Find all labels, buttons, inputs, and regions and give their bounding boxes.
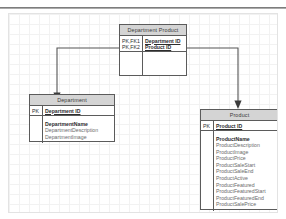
entity-attribute-section-product: ProductName ProductDescription ProductIm… (201, 131, 278, 211)
pk-attribute-name: Department ID (43, 108, 114, 115)
attribute-name: ProductFeaturedEnd (214, 195, 278, 202)
entity-pk-section-department-product: PK,FK1 PK,FK2 Department ID Product ID (120, 36, 186, 52)
pk-attribute-name: Product ID (143, 44, 186, 51)
attribute-column (143, 52, 186, 75)
attribute-name: ProductSalePrice (214, 201, 278, 208)
entity-title-department: Department (30, 95, 114, 106)
entity-attribute-section-department: DepartmentName DepartmentDescription Dep… (30, 116, 114, 143)
entity-department-product[interactable]: Department Product PK,FK1 PK,FK2 Departm… (119, 24, 187, 76)
attribute-name: DepartmentImage (43, 134, 114, 141)
attribute-name: ProductName (214, 136, 278, 143)
entity-title-department-product: Department Product (120, 25, 186, 36)
connector-department-product-to-product (187, 48, 242, 109)
attribute-name: ProductImage (214, 149, 278, 156)
attribute-column: DepartmentName DepartmentDescription Dep… (43, 116, 114, 143)
attribute-name: ProductSaleEnd (214, 168, 278, 175)
entity-attribute-section-department-product (120, 52, 186, 75)
attribute-name: ProductActive (214, 175, 278, 182)
pk-key-label: PK (201, 123, 213, 130)
window-top-rule (0, 7, 286, 9)
attribute-name: ProductSaleStart (214, 162, 278, 169)
attribute-name: ProductFeaturedStart (214, 188, 278, 195)
entity-pk-section-department: PK Department ID (30, 106, 114, 116)
attribute-name: DepartmentName (43, 121, 114, 128)
entity-pk-section-product: PK Product ID (201, 121, 278, 131)
attribute-name: DepartmentDescription (43, 127, 114, 134)
attribute-key-column (30, 116, 43, 143)
pk-key-column: PK (30, 106, 43, 115)
entity-product[interactable]: Product PK Product ID ProductName Produc… (200, 109, 278, 210)
pk-key-label: PK,FK1 (120, 38, 142, 45)
pk-attribute-column: Department ID (43, 106, 114, 115)
pk-attribute-column: Product ID (214, 121, 278, 130)
erd-screenshot: Department Product PK,FK1 PK,FK2 Departm… (0, 0, 286, 219)
entity-title-product: Product (201, 110, 278, 121)
attribute-column: ProductName ProductDescription ProductIm… (214, 131, 278, 211)
attribute-name: ProductPrice (214, 155, 278, 162)
entity-department[interactable]: Department PK Department ID DepartmentNa… (29, 94, 115, 142)
pk-key-label: PK (30, 108, 42, 115)
pk-key-label: PK,FK2 (120, 44, 142, 51)
attribute-name: ProductFeatured (214, 182, 278, 189)
attribute-key-column (120, 52, 143, 75)
attribute-key-column (201, 131, 214, 211)
pk-key-column: PK,FK1 PK,FK2 (120, 36, 143, 51)
pk-attribute-name: Department ID (143, 38, 186, 45)
diagram-canvas[interactable]: Department Product PK,FK1 PK,FK2 Departm… (8, 13, 278, 213)
pk-attribute-column: Department ID Product ID (143, 36, 186, 51)
pk-attribute-name: Product ID (214, 123, 278, 130)
attribute-name: ProductDescription (214, 142, 278, 149)
pk-key-column: PK (201, 121, 214, 130)
